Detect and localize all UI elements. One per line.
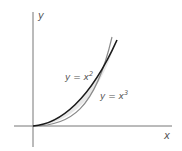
x-axis-label: x xyxy=(163,130,170,141)
label-x-cubed: y = x3 xyxy=(99,89,128,101)
label-x-squared: y = x2 xyxy=(64,70,93,82)
area-between-curves-diagram: y x y = x2 y = x3 xyxy=(0,0,182,151)
y-axis-label: y xyxy=(37,10,45,21)
